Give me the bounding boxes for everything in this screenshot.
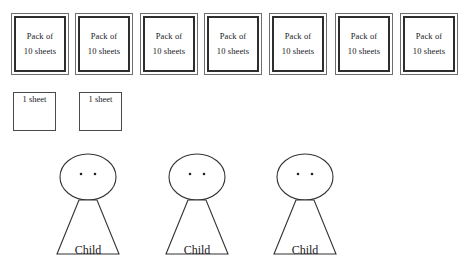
child-figure: Child	[149, 150, 245, 260]
child-label: Child	[149, 244, 245, 256]
single-sheet-box: 1 sheet	[79, 92, 122, 131]
head-ellipse	[169, 154, 225, 200]
pack-box: Pack of 10 sheets	[11, 13, 69, 75]
pack-box: Pack of 10 sheets	[75, 13, 133, 75]
pack-label-line2: 10 sheets	[282, 47, 314, 56]
right-eye-dot	[94, 173, 97, 176]
single-sheet-box: 1 sheet	[13, 92, 56, 131]
pack-label-line1: Pack of	[416, 32, 442, 41]
pack-label-line1: Pack of	[220, 32, 246, 41]
pack-box: Pack of 10 sheets	[204, 13, 262, 75]
right-eye-dot	[311, 173, 314, 176]
left-eye-dot	[297, 173, 300, 176]
pack-box-inner: Pack of 10 sheets	[403, 16, 455, 72]
single-sheet-label: 1 sheet	[80, 95, 121, 104]
pack-box: Pack of 10 sheets	[335, 13, 393, 75]
pack-label-line2: 10 sheets	[217, 47, 249, 56]
pack-box: Pack of 10 sheets	[140, 13, 198, 75]
pack-box-inner: Pack of 10 sheets	[207, 16, 259, 72]
pack-label-line1: Pack of	[27, 32, 53, 41]
child-figure: Child	[257, 150, 353, 260]
pack-box: Pack of 10 sheets	[269, 13, 327, 75]
pack-box-inner: Pack of 10 sheets	[78, 16, 130, 72]
pack-label-line2: 10 sheets	[348, 47, 380, 56]
pack-box-inner: Pack of 10 sheets	[143, 16, 195, 72]
head-ellipse	[277, 154, 333, 200]
pack-box-inner: Pack of 10 sheets	[338, 16, 390, 72]
pack-label-line2: 10 sheets	[88, 47, 120, 56]
child-label: Child	[257, 244, 353, 256]
left-eye-dot	[80, 173, 83, 176]
child-label: Child	[40, 244, 136, 256]
pack-label-line2: 10 sheets	[153, 47, 185, 56]
single-sheet-label: 1 sheet	[14, 95, 55, 104]
pack-label-line1: Pack of	[285, 32, 311, 41]
pack-label-line1: Pack of	[91, 32, 117, 41]
pack-box-inner: Pack of 10 sheets	[14, 16, 66, 72]
diagram-canvas: Pack of 10 sheets Pack of 10 sheets Pack…	[0, 0, 465, 265]
left-eye-dot	[189, 173, 192, 176]
pack-label-line2: 10 sheets	[413, 47, 445, 56]
head-ellipse	[60, 154, 116, 200]
pack-label-line1: Pack of	[156, 32, 182, 41]
right-eye-dot	[203, 173, 206, 176]
pack-label-line1: Pack of	[351, 32, 377, 41]
pack-label-line2: 10 sheets	[24, 47, 56, 56]
pack-box-inner: Pack of 10 sheets	[272, 16, 324, 72]
pack-box: Pack of 10 sheets	[400, 13, 458, 75]
child-figure: Child	[40, 150, 136, 260]
